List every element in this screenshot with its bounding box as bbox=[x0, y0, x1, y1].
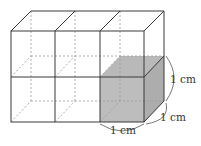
depth-label: 1 cm bbox=[160, 111, 186, 123]
cuboid-diagram: 1 cm 1 cm 1 cm bbox=[0, 0, 201, 146]
height-label: 1 cm bbox=[170, 73, 196, 85]
width-label: 1 cm bbox=[110, 124, 136, 136]
cuboid-svg: 1 cm 1 cm 1 cm bbox=[0, 0, 201, 146]
